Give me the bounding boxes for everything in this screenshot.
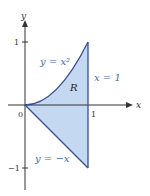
curve-label-upper: y = x² bbox=[39, 56, 70, 67]
origin-label: 0 bbox=[18, 110, 23, 119]
curve-label-right: x = 1 bbox=[94, 72, 121, 83]
y-tick-label-1: 1 bbox=[14, 38, 19, 47]
y-tick-label-neg1: −1 bbox=[8, 164, 20, 173]
y-axis-arrow-icon bbox=[22, 20, 28, 27]
y-axis-label: y bbox=[20, 11, 27, 21]
x-tick-label-1: 1 bbox=[91, 110, 96, 119]
region-label: R bbox=[69, 82, 78, 93]
region-diagram: y x 1 −1 0 1 y = x² x = 1 y = −x R bbox=[0, 0, 150, 196]
curve-label-lower: y = −x bbox=[34, 153, 70, 164]
x-axis-arrow-icon bbox=[126, 102, 133, 108]
x-axis-label: x bbox=[136, 100, 141, 110]
